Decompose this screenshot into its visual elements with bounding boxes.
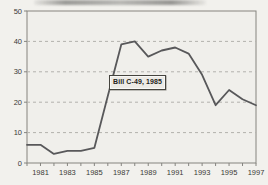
annotation-label: Bill C-49, 1985	[113, 78, 162, 85]
y-tick-label: 10	[14, 128, 22, 137]
y-tick-label: 50	[14, 7, 22, 16]
x-tick-label: 1993	[194, 168, 211, 177]
annotation-box: Bill C-49, 1985	[109, 75, 166, 90]
line-chart: 0102030405019811983198519871989199119931…	[0, 0, 268, 185]
x-tick-label: 1981	[32, 168, 49, 177]
y-tick-label: 20	[14, 98, 22, 107]
figure-canvas: 0102030405019811983198519871989199119931…	[0, 0, 268, 185]
x-tick-label: 1983	[59, 168, 76, 177]
x-tick-label: 1997	[248, 168, 265, 177]
x-tick-label: 1991	[167, 168, 184, 177]
x-tick-label: 1987	[113, 168, 130, 177]
y-tick-label: 0	[18, 159, 22, 168]
x-tick-label: 1995	[221, 168, 238, 177]
x-tick-label: 1985	[86, 168, 103, 177]
x-tick-label: 1989	[140, 168, 157, 177]
y-tick-label: 40	[14, 37, 22, 46]
y-tick-label: 30	[14, 67, 22, 76]
